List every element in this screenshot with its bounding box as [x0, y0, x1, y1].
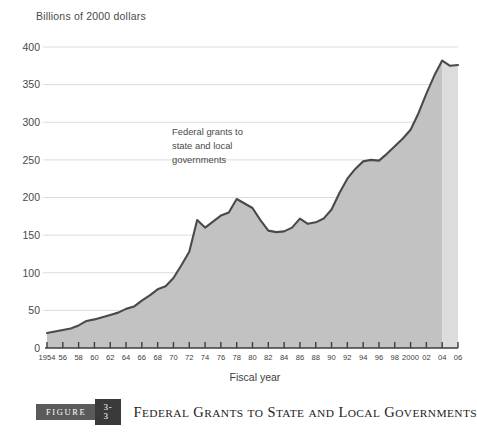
- x-tick-label: 2000: [402, 353, 419, 362]
- area-fill-group: [47, 61, 458, 348]
- y-tick-labels-group: 050100150200250300350400: [22, 41, 47, 354]
- x-tick-label: 86: [296, 353, 304, 362]
- x-tick-label: 04: [438, 353, 446, 362]
- y-tick-label: 0: [34, 342, 40, 354]
- x-tick-label: 68: [153, 353, 161, 362]
- x-tick-label: 72: [185, 353, 193, 362]
- x-tick-label: 82: [264, 353, 272, 362]
- area-fill-actual: [47, 61, 458, 348]
- x-tick-label: 74: [201, 353, 209, 362]
- y-tick-label: 250: [22, 154, 40, 166]
- annotation-line-2: state and local: [172, 140, 232, 151]
- x-tick-label: 66: [138, 353, 146, 362]
- x-tick-label: 92: [343, 353, 351, 362]
- annotation-line-1: Federal grants to: [172, 126, 243, 137]
- caption-figure-label: Figure: [36, 404, 95, 421]
- x-tick-label: 98: [391, 353, 399, 362]
- x-tick-label: 06: [454, 353, 462, 362]
- chart-plot-area: 050100150200250300350400 195456586062646…: [0, 0, 477, 390]
- x-axis-title: Fiscal year: [230, 371, 281, 383]
- caption-title: FEDERAL GRANTS TO STATE AND LOCAL GOVERN…: [134, 404, 477, 421]
- x-tick-label: 1954: [39, 353, 56, 362]
- y-tick-label: 400: [22, 41, 40, 53]
- x-tick-label: 84: [280, 353, 288, 362]
- y-tick-label: 350: [22, 78, 40, 90]
- x-tick-label: 80: [248, 353, 256, 362]
- x-tick-label: 60: [90, 353, 98, 362]
- x-tick-label: 64: [122, 353, 130, 362]
- y-tick-label: 50: [28, 304, 40, 316]
- x-tick-label: 56: [59, 353, 67, 362]
- y-tick-label: 200: [22, 191, 40, 203]
- figure-caption: Figure 3-3 FEDERAL GRANTS TO STATE AND L…: [0, 392, 477, 432]
- x-tick-label: 88: [312, 353, 320, 362]
- x-tick-label: 58: [74, 353, 82, 362]
- x-tick-label: 94: [359, 353, 367, 362]
- chart-svg: 050100150200250300350400 195456586062646…: [0, 0, 477, 390]
- x-tick-label: 96: [375, 353, 383, 362]
- x-tick-label: 62: [106, 353, 114, 362]
- x-tick-label: 78: [232, 353, 240, 362]
- chart-annotation: Federal grants to state and local govern…: [172, 126, 243, 165]
- x-tick-labels-group: 1954565860626466687072747678808284868890…: [39, 353, 463, 362]
- y-tick-label: 150: [22, 229, 40, 241]
- y-tick-label: 100: [22, 267, 40, 279]
- x-tick-label: 70: [169, 353, 177, 362]
- x-tick-label: 90: [327, 353, 335, 362]
- x-tick-label: 76: [217, 353, 225, 362]
- figure-container: Billions of 2000 dollars 050100150200250…: [0, 0, 477, 432]
- caption-figure-number: 3-3: [95, 399, 120, 425]
- annotation-line-3: governments: [172, 154, 227, 165]
- x-tick-label: 02: [422, 353, 430, 362]
- y-tick-label: 300: [22, 116, 40, 128]
